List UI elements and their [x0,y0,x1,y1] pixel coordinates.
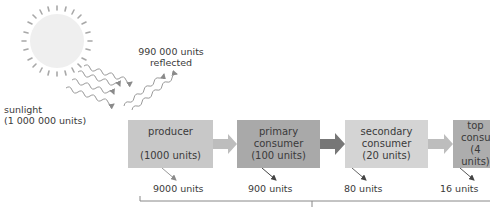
reflected-text: reflected [126,57,216,68]
level-name-2: consumer [461,132,490,144]
level-name: primary [237,126,320,138]
sunlight-label: sunlight (1 000 000 units) [4,104,86,126]
level-units: (100 units) [237,150,320,162]
level-name: producer [128,126,213,138]
reflected-amount: 990 000 units [126,46,216,57]
level-units: (20 units) [345,150,428,162]
trophic-level-primary-consumer: primary consumer (100 units) [237,120,320,168]
trophic-level-producer: producer (1000 units) [128,120,213,168]
level-name-2: consumer [345,138,428,150]
loss-label-secondary: 80 units [344,183,382,194]
sunlight-amount: (1 000 000 units) [4,115,86,126]
level-name-2: consumer [237,138,320,150]
sunlight-ray-icons [66,65,132,105]
loss-label-top: 16 units [440,183,478,194]
sunlight-text: sunlight [4,104,86,115]
trophic-level-top-consumer: top consumer (4 units) [453,120,490,168]
level-units: (4 units) [461,144,490,168]
trophic-level-secondary-consumer: secondary consumer (20 units) [345,120,428,168]
reflected-ray-icons [124,74,177,110]
reflected-label: 990 000 units reflected [126,46,216,68]
level-name: top [461,120,490,132]
loss-label-producer: 9000 units [153,183,204,194]
level-name: secondary [345,126,428,138]
heat-loss-bracket [140,196,490,207]
level-units: (1000 units) [128,150,213,162]
sun-icon [22,6,92,76]
energy-loss-arrows [162,168,474,180]
loss-label-primary: 900 units [248,183,293,194]
